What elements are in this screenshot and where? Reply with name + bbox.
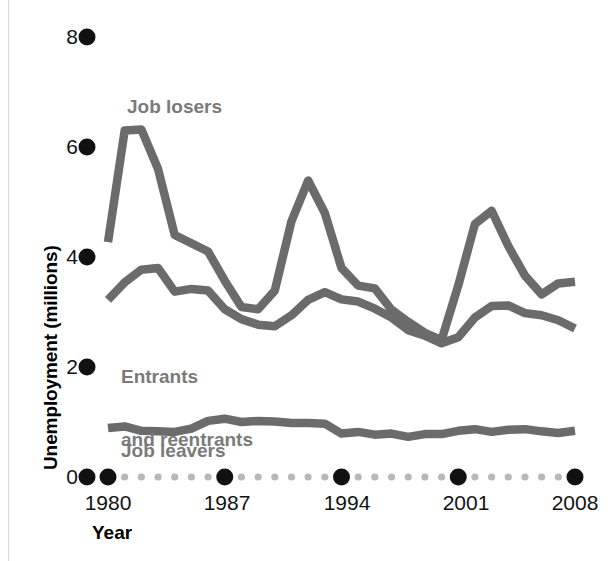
x-minor-tick-dot-1990 [271, 473, 278, 480]
series-annotation-job-losers: Job losers [127, 96, 222, 117]
y-tick-dot-4 [79, 249, 96, 266]
x-minor-tick-dot-2003 [488, 473, 495, 480]
series-annotation-entrants: Entrants and reentrants [121, 323, 253, 493]
x-minor-tick-dot-2000 [438, 473, 445, 480]
x-minor-tick-dot-2007 [555, 473, 562, 480]
x-axis-title: Year [92, 522, 132, 544]
x-tick-label-1994: 1994 [307, 492, 387, 513]
y-axis-tick-dots [79, 29, 96, 486]
y-tick-label-8: 8 [52, 26, 78, 47]
x-minor-tick-dot-1992 [305, 473, 312, 480]
x-minor-tick-dot-1993 [321, 473, 328, 480]
x-tick-label-1987: 1987 [187, 492, 267, 513]
x-major-tick-dot-2001 [450, 469, 467, 486]
x-tick-label-2008: 2008 [535, 492, 608, 513]
y-tick-dot-0 [79, 469, 96, 486]
x-minor-tick-dot-1999 [421, 473, 428, 480]
x-minor-tick-dot-2002 [471, 473, 478, 480]
x-major-tick-dot-2008 [567, 469, 584, 486]
x-minor-tick-dot-1989 [255, 473, 262, 480]
y-axis-title: Unemployment (millions) [40, 245, 62, 470]
x-tick-label-2001: 2001 [426, 492, 506, 513]
x-minor-tick-dot-1998 [405, 473, 412, 480]
y-tick-dot-6 [79, 139, 96, 156]
y-tick-dot-2 [79, 359, 96, 376]
x-minor-tick-dot-2006 [538, 473, 545, 480]
x-major-tick-dot-1994 [333, 469, 350, 486]
series-annotation-job-leavers: Job leavers [121, 440, 226, 461]
x-minor-tick-dot-2005 [521, 473, 528, 480]
x-minor-tick-dot-2004 [505, 473, 512, 480]
chart-plot-area [0, 0, 608, 561]
unemployment-line-chart: 8 6 4 2 0 1980 1987 1994 2001 2008 Unemp… [0, 0, 608, 561]
x-minor-tick-dot-1991 [288, 473, 295, 480]
series-annotation-entrants-line1: Entrants [121, 366, 253, 387]
x-minor-tick-dot-1996 [371, 473, 378, 480]
x-tick-label-1980: 1980 [68, 492, 148, 513]
y-tick-label-6: 6 [52, 136, 78, 157]
y-tick-dot-8 [79, 29, 96, 46]
x-minor-tick-dot-1997 [388, 473, 395, 480]
x-minor-tick-dot-1995 [355, 473, 362, 480]
x-major-tick-dot-1980 [100, 469, 117, 486]
